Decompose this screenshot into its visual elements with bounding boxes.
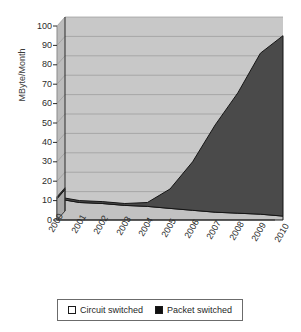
chart-figure: MByte/Month 1009080706050403020100 bbox=[0, 0, 301, 332]
legend-label: Packet switched bbox=[167, 305, 232, 315]
legend-entry: Circuit switched bbox=[68, 305, 143, 315]
legend-entry: Packet switched bbox=[155, 305, 232, 315]
chart-legend: Circuit switchedPacket switched bbox=[57, 299, 243, 321]
plot-area bbox=[0, 0, 301, 332]
black-square-swatch bbox=[155, 306, 163, 314]
white-square-swatch bbox=[68, 306, 76, 314]
y-axis-tick-marks bbox=[53, 26, 57, 220]
legend-label: Circuit switched bbox=[80, 305, 143, 315]
